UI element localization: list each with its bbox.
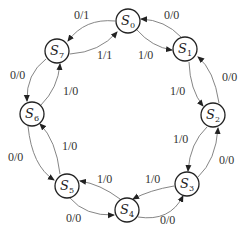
edge-s6-s7 [41, 64, 60, 105]
edge-s0-s7 [68, 21, 115, 41]
state-s3: S3 [175, 172, 199, 196]
edge-s6-s5 [28, 126, 54, 180]
edge-s7-s6 [27, 59, 46, 101]
edge-s1-s2 [189, 62, 203, 106]
label-s6-s7: 1/0 [63, 84, 78, 98]
label-s1-s2: 1/0 [170, 84, 185, 98]
label-s5-s4: 0/0 [66, 211, 81, 225]
state-s2: S2 [201, 103, 225, 127]
edge-s2-s1 [198, 57, 219, 103]
state-s6: S6 [20, 102, 44, 126]
states: S0 S1 S2 S3 S4 S5 S6 S7 [20, 9, 225, 222]
state-s5: S5 [55, 174, 79, 198]
label-s3-s2: 0/0 [219, 153, 234, 167]
label-s0-s1: 1/0 [138, 48, 153, 62]
label-s4-s5: 1/0 [97, 172, 112, 186]
state-s4: S4 [115, 198, 139, 222]
label-s7-s6: 0/0 [10, 68, 25, 82]
label-s2-s3: 1/0 [173, 132, 188, 146]
state-s1: S1 [173, 37, 197, 61]
edge-s2-s3 [188, 127, 207, 171]
label-s2-s1: 0/0 [222, 70, 237, 84]
state-s7: S7 [45, 39, 69, 63]
label-s6-s5: 0/0 [8, 150, 23, 164]
label-s3-s4: 1/0 [145, 172, 160, 186]
edge-s3-s2 [198, 128, 218, 177]
edge-s5-s6 [40, 124, 60, 174]
label-s1-s0: 0/0 [164, 8, 179, 22]
edge-s3-s4 [133, 186, 174, 199]
label-s7-s0: 1/1 [97, 48, 112, 62]
label-s4-s3: 0/0 [160, 213, 175, 227]
state-s0: S0 [116, 9, 140, 33]
label-s5-s6: 1/0 [62, 139, 77, 153]
state-diagram: 1/0 0/0 1/0 0/0 1/0 0/0 1/0 0/0 1/0 0/0 … [0, 0, 247, 241]
label-s0-s7: 0/1 [74, 8, 89, 22]
edge-s0-s1 [137, 30, 172, 50]
